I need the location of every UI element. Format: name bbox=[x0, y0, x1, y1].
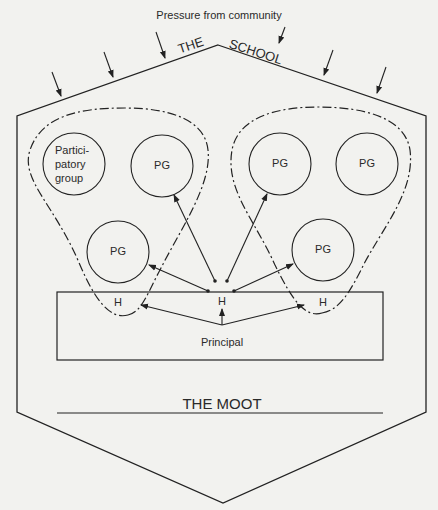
moot-label: THE MOOT bbox=[182, 395, 261, 412]
pg-label-right-far: PG bbox=[359, 157, 375, 169]
diagram-graphics bbox=[0, 0, 438, 510]
school-outline bbox=[17, 45, 426, 503]
head-label-right: H bbox=[319, 296, 327, 308]
head-arrows bbox=[149, 194, 293, 291]
pg-label-right-bottom: PG bbox=[315, 243, 331, 255]
participatory-group-label: Partici- patory group bbox=[55, 143, 89, 185]
pressure-label: Pressure from community bbox=[156, 9, 281, 21]
pg-label-line-2: patory bbox=[55, 157, 89, 171]
head-label-left: H bbox=[114, 296, 122, 308]
head-label-center: H bbox=[218, 295, 226, 307]
pg-label-line-3: group bbox=[55, 171, 89, 185]
pg-label-right-top: PG bbox=[272, 157, 288, 169]
principal-label: Principal bbox=[201, 336, 243, 348]
pg-label-line-1: Partici- bbox=[55, 143, 89, 157]
pg-label-left-top: PG bbox=[154, 159, 170, 171]
school-moot-diagram: Pressure from community THE SCHOOL Parti… bbox=[0, 0, 438, 510]
pg-label-left-bottom: PG bbox=[110, 245, 126, 257]
principal-arrows bbox=[141, 305, 304, 325]
